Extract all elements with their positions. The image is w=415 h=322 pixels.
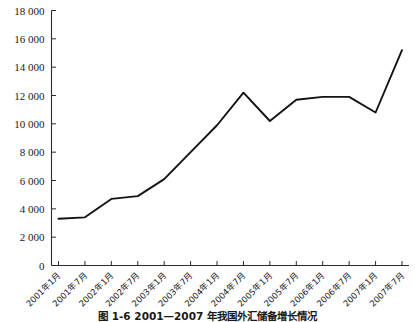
- y-axis-tick-marks: [52, 11, 57, 238]
- y-axis-tick-labels: 18 00016 00014 00012 00010 0008 0006 000…: [14, 5, 45, 272]
- x-axis-tick-labels: 2001年1月2001年7月2002年1月2002年7月2003年1月2003年…: [24, 270, 406, 309]
- y-axis-tick-label: 18 000: [14, 5, 45, 17]
- y-axis-tick-label: 4 000: [20, 203, 45, 215]
- y-axis-tick-label: 10 000: [14, 118, 45, 130]
- y-axis-tick-label: 12 000: [14, 90, 45, 102]
- figure-container: 18 00016 00014 00012 00010 0008 0006 000…: [0, 0, 415, 322]
- y-axis-tick-label: 6 000: [20, 175, 45, 187]
- x-axis-tick-marks: [59, 261, 403, 266]
- y-axis-tick-label: 16 000: [14, 33, 45, 45]
- y-axis-tick-label: 0: [39, 260, 45, 272]
- y-axis-tick-label: 2 000: [20, 231, 45, 243]
- y-axis-tick-label: 14 000: [14, 61, 45, 73]
- line-chart: 18 00016 00014 00012 00010 0008 0006 000…: [0, 0, 415, 322]
- figure-caption: 图 1-6 2001—2007 年我国外汇储备增长情况: [0, 309, 415, 322]
- y-axis-tick-label: 8 000: [20, 146, 45, 158]
- data-series-line: [59, 50, 403, 219]
